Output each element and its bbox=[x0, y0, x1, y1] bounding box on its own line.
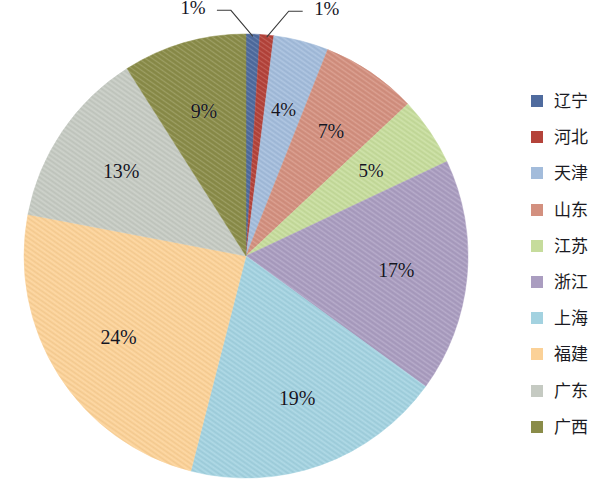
slice-value-label: 13% bbox=[103, 160, 139, 183]
legend-label: 山东 bbox=[554, 201, 588, 219]
slice-value-label: 1% bbox=[180, 0, 205, 19]
legend-label: 上海 bbox=[554, 309, 588, 327]
pie-plot-area: 1%1%4%7%5%17%19%24%13%9% bbox=[0, 0, 500, 490]
legend-label: 天津 bbox=[554, 164, 588, 182]
legend-color-swatch bbox=[531, 240, 543, 252]
slice-value-label: 5% bbox=[358, 160, 383, 182]
slice-value-label: 1% bbox=[314, 0, 339, 20]
slice-value-label: 24% bbox=[100, 325, 136, 348]
legend-item[interactable]: 河北 bbox=[531, 128, 588, 146]
legend-label: 江苏 bbox=[554, 237, 588, 255]
legend-item[interactable]: 广东 bbox=[531, 382, 588, 400]
pie-leader-lines bbox=[217, 10, 303, 37]
legend-color-swatch bbox=[531, 385, 543, 397]
legend-color-swatch bbox=[531, 421, 543, 433]
legend-label: 广西 bbox=[554, 418, 588, 436]
legend-label: 辽宁 bbox=[554, 92, 588, 110]
legend: 辽宁河北天津山东江苏浙江上海福建广东广西 bbox=[531, 92, 605, 452]
legend-label: 河北 bbox=[554, 128, 588, 146]
legend-item[interactable]: 上海 bbox=[531, 309, 588, 327]
legend-color-swatch bbox=[531, 95, 543, 107]
legend-item[interactable]: 天津 bbox=[531, 164, 588, 182]
pie-texture-overlay bbox=[24, 34, 468, 478]
legend-color-swatch bbox=[531, 131, 543, 143]
slice-value-label: 19% bbox=[279, 387, 315, 410]
legend-item[interactable]: 辽宁 bbox=[531, 92, 588, 110]
leader-line bbox=[267, 11, 303, 37]
pie-chart: 1%1%4%7%5%17%19%24%13%9% 辽宁河北天津山东江苏浙江上海福… bbox=[0, 0, 605, 490]
legend-label: 浙江 bbox=[554, 273, 588, 291]
slice-value-label: 17% bbox=[378, 259, 414, 282]
legend-label: 福建 bbox=[554, 345, 588, 363]
legend-label: 广东 bbox=[554, 382, 588, 400]
legend-item[interactable]: 江苏 bbox=[531, 237, 588, 255]
legend-item[interactable]: 广西 bbox=[531, 418, 588, 436]
legend-item[interactable]: 浙江 bbox=[531, 273, 588, 291]
slice-value-label: 9% bbox=[191, 100, 217, 123]
legend-color-swatch bbox=[531, 204, 543, 216]
pie-svg bbox=[0, 0, 500, 490]
legend-color-swatch bbox=[531, 348, 543, 360]
slice-value-label: 7% bbox=[318, 120, 344, 143]
legend-item[interactable]: 山东 bbox=[531, 201, 588, 219]
legend-color-swatch bbox=[531, 276, 543, 288]
legend-item[interactable]: 福建 bbox=[531, 345, 588, 363]
leader-line bbox=[217, 10, 253, 36]
slice-value-label: 4% bbox=[271, 99, 296, 121]
legend-color-swatch bbox=[531, 312, 543, 324]
legend-color-swatch bbox=[531, 167, 543, 179]
